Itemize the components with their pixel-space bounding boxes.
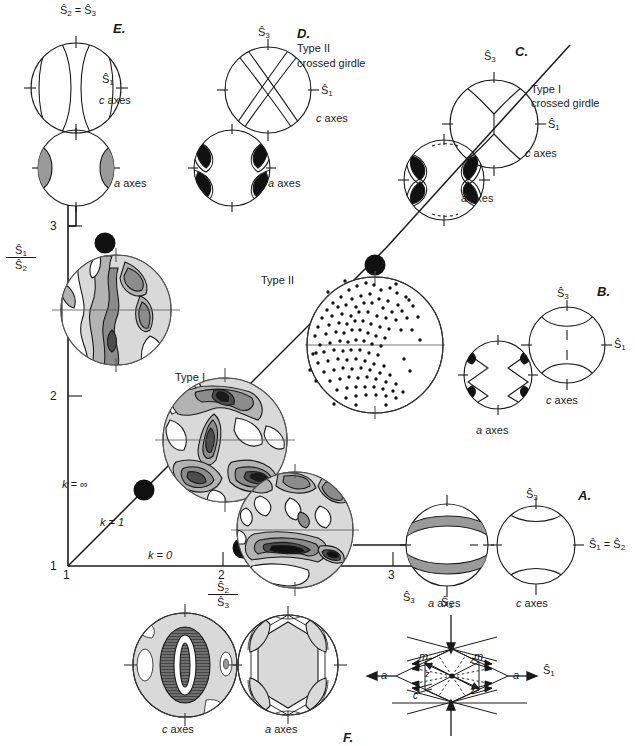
panel-E-a-axes-label: a axes xyxy=(114,177,146,190)
panel-C-top-axis-label: Ŝ3 xyxy=(484,50,496,63)
panel-E-letter: E. xyxy=(113,22,125,37)
panel-C-letter: C. xyxy=(515,45,528,60)
scatter-type-ii xyxy=(305,271,445,419)
crystal-label-s3: Ŝ3 xyxy=(441,596,453,609)
panel-B-right-axis-label: Ŝ1 xyxy=(614,338,626,351)
panel-F-a-axes-label: a axes xyxy=(265,723,297,736)
crystal-lattice-diagram xyxy=(367,615,537,736)
crystal-label-m-right: m xyxy=(474,650,483,663)
crystal-label-z-topright: z xyxy=(470,655,475,665)
panel-D-title-line1: Type II xyxy=(297,42,330,55)
panel-E-right-axis-label: Ŝ1 xyxy=(102,73,114,86)
x-tick-2: 2 xyxy=(218,568,225,582)
panel-E-top-axis-label: Ŝ2 = Ŝ3 xyxy=(48,5,108,16)
panel-D-title-line2: crossed girdle xyxy=(297,57,365,70)
panel-D-c-axes-label: c axes xyxy=(316,112,348,125)
panel-B xyxy=(458,300,612,415)
panel-C-title-line2: crossed girdle xyxy=(531,97,599,110)
crystal-label-a-right: a xyxy=(513,669,519,682)
k-zero-label: k = 0 xyxy=(148,549,172,562)
crystal-label-s1: Ŝ1 xyxy=(543,664,555,677)
x-tick-3: 3 xyxy=(388,568,395,582)
panel-C-right-axis-label: Ŝ1 xyxy=(548,118,560,131)
k-one-label: k = 1 xyxy=(100,516,124,529)
x-axis-label: Ŝ2 Ŝ3 xyxy=(208,582,238,608)
figure-canvas: Ŝ2 = Ŝ3 E. Ŝ1 c axes a axes Ŝ3 D. Type I… xyxy=(0,0,635,746)
panel-C-c-axes-label: c axes xyxy=(525,147,557,160)
k-infinity-label: k = ∞ xyxy=(62,478,88,491)
panel-B-a-axes-label: a axes xyxy=(476,424,508,437)
crystal-label-z-botright: z xyxy=(470,686,475,696)
panel-A-top-axis-label: Ŝ3 xyxy=(526,488,538,501)
crystal-label-z-left: z xyxy=(425,669,430,679)
panel-B-top-axis-label: Ŝ3 xyxy=(557,287,569,300)
crystal-label-m-left: m xyxy=(419,650,428,663)
panel-E-c-axes-label: c axes xyxy=(99,94,131,107)
panel-B-letter: B. xyxy=(597,285,610,300)
panel-A-right-axis-label: Ŝ1 = Ŝ2 xyxy=(589,538,625,551)
type-ii-label: Type II xyxy=(261,274,294,287)
y-axis-denominator: Ŝ2 xyxy=(15,259,27,271)
x-tick-1: 1 xyxy=(63,568,70,582)
contoured-constrictional xyxy=(52,248,180,372)
y-tick-3: 3 xyxy=(50,219,57,233)
panel-F xyxy=(124,604,347,726)
panel-E-s2-label: Ŝ2 = Ŝ3 xyxy=(60,4,96,16)
x-axis-numerator: Ŝ2 xyxy=(217,581,229,593)
panel-C-a-axes-label: a axes xyxy=(461,192,493,205)
x-axis-denominator: Ŝ3 xyxy=(217,596,229,608)
type-i-label: Type I xyxy=(175,371,205,384)
crystal-label-c: c xyxy=(413,690,418,702)
panel-F-c-axes-label: c axes xyxy=(162,723,194,736)
panel-D-letter: D. xyxy=(297,27,310,42)
y-tick-2: 2 xyxy=(50,389,57,403)
panel-D-right-axis-label: Ŝ1 xyxy=(321,84,333,97)
y-axis-numerator: Ŝ1 xyxy=(15,244,27,256)
panel-C-title-line1: Type I xyxy=(531,83,561,96)
panel-E xyxy=(24,36,128,226)
y-axis-label: Ŝ1 Ŝ2 xyxy=(6,245,36,271)
y-tick-1: 1 xyxy=(50,559,57,573)
panel-B-c-axes-label: c axes xyxy=(546,394,578,407)
panel-D-top-axis-label: Ŝ3 xyxy=(258,26,270,39)
panel-F-letter: F. xyxy=(343,731,353,746)
panel-A-letter: A. xyxy=(578,489,591,504)
crystal-label-a-left: a xyxy=(381,669,387,682)
panel-A-s3-label: Ŝ3 xyxy=(403,591,415,604)
panel-D-a-axes-label: a axes xyxy=(268,177,300,190)
panel-A-c-axes-label: c axes xyxy=(516,597,548,610)
